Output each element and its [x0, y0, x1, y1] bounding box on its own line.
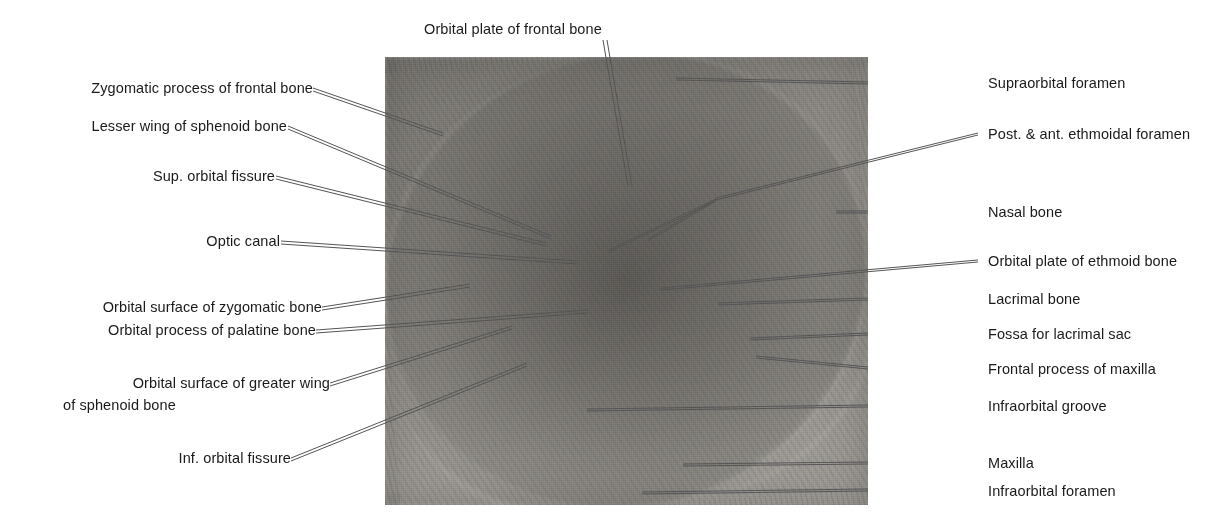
- label-orbital-surface-greater-wing-sphenoid-line1: Orbital surface of greater wing: [133, 373, 330, 394]
- label-infraorbital-groove: Infraorbital groove: [988, 396, 1107, 417]
- label-fossa-for-lacrimal-sac: Fossa for lacrimal sac: [988, 324, 1131, 345]
- label-frontal-process-maxilla: Frontal process of maxilla: [988, 359, 1156, 380]
- label-orbital-surface-zygomatic-bone: Orbital surface of zygomatic bone: [103, 297, 322, 318]
- label-infraorbital-foramen: Infraorbital foramen: [988, 481, 1116, 502]
- label-orbital-surface-greater-wing-sphenoid-line2: of sphenoid bone: [63, 395, 176, 416]
- label-sup-orbital-fissure: Sup. orbital fissure: [153, 166, 275, 187]
- label-inf-orbital-fissure: Inf. orbital fissure: [179, 448, 291, 469]
- anatomical-figure: Orbital plate of frontal bone Zygomatic …: [0, 0, 1231, 532]
- label-orbital-process-palatine-bone: Orbital process of palatine bone: [108, 320, 316, 341]
- label-orbital-plate-frontal-bone: Orbital plate of frontal bone: [424, 19, 602, 40]
- label-supraorbital-foramen: Supraorbital foramen: [988, 73, 1125, 94]
- label-optic-canal: Optic canal: [206, 231, 280, 252]
- label-nasal-bone: Nasal bone: [988, 202, 1062, 223]
- label-post-ant-ethmoidal-foramen: Post. & ant. ethmoidal foramen: [988, 124, 1190, 145]
- label-lesser-wing-sphenoid-bone: Lesser wing of sphenoid bone: [92, 116, 287, 137]
- photo-vignette: [385, 57, 868, 505]
- orbit-photograph: [385, 57, 868, 505]
- label-orbital-plate-ethmoid-bone: Orbital plate of ethmoid bone: [988, 251, 1177, 272]
- label-maxilla: Maxilla: [988, 453, 1034, 474]
- label-lacrimal-bone: Lacrimal bone: [988, 289, 1080, 310]
- label-zygomatic-process-frontal-bone: Zygomatic process of frontal bone: [91, 78, 313, 99]
